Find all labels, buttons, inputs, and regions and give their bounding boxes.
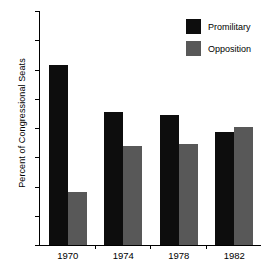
x-axis-tick	[206, 245, 207, 249]
bar-opposition-1970	[68, 192, 87, 245]
bar-promilitary-1978	[160, 115, 179, 245]
y-axis-title: Percent of Congressional Seats	[17, 43, 27, 203]
bar-promilitary-1982	[215, 132, 234, 245]
legend-swatch-gray-icon	[186, 41, 201, 56]
bar-opposition-1978	[179, 144, 198, 245]
legend-label: Promilitary	[208, 22, 251, 32]
bar-opposition-1982	[234, 127, 253, 245]
legend-item-promilitary: Promilitary	[186, 19, 269, 34]
legend-swatch-black-icon	[186, 19, 201, 34]
x-axis-tick-labels: 1970197419781982	[39, 250, 261, 264]
y-axis-tick	[35, 245, 39, 246]
bar-promilitary-1970	[49, 65, 68, 245]
x-axis-tick	[95, 245, 96, 249]
bar-chart: Percent of Congressional Seats 908070605…	[0, 0, 269, 275]
bar-opposition-1974	[123, 146, 142, 245]
x-axis-tick-label: 1974	[92, 250, 154, 262]
bar-promilitary-1974	[104, 112, 123, 245]
chart-legend: Promilitary Opposition	[186, 19, 269, 63]
legend-label: Opposition	[208, 44, 251, 54]
x-axis-tick-label: 1982	[203, 250, 265, 262]
x-axis-tick-label: 1970	[37, 250, 99, 262]
legend-item-opposition: Opposition	[186, 41, 269, 56]
x-axis-tick-label: 1978	[148, 250, 210, 262]
x-axis-tick	[150, 245, 151, 249]
